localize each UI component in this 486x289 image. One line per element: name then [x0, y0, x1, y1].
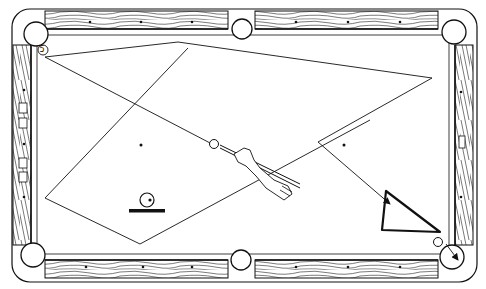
rail-left: [13, 45, 31, 245]
rail-latch-icon: [19, 172, 27, 182]
rail-latch-icon: [19, 118, 27, 128]
pocket-top-center: [232, 19, 252, 39]
rail-top-right: [255, 11, 438, 29]
pocket-top-right: [442, 20, 466, 44]
foot-spot: [343, 144, 346, 147]
table-frame: [12, 9, 477, 282]
pool-table-diagram: 5: [0, 0, 486, 289]
pocket-top-left: [24, 22, 48, 46]
object-ball: [434, 238, 443, 247]
rail-latch-icon: [19, 158, 27, 168]
ball-5-label: 5: [40, 46, 45, 54]
rail-latch-icon: [459, 136, 465, 148]
rail-bottom-right: [255, 260, 438, 278]
cue-ball: [210, 140, 219, 149]
pocket-bottom-right: [440, 245, 464, 269]
pocket-bottom-left: [21, 243, 45, 267]
head-spot: [140, 144, 143, 147]
rail-top-left: [45, 11, 228, 29]
pocket-bottom-center: [231, 250, 251, 270]
pool-table-svg: [0, 0, 486, 289]
rail-bottom-left: [45, 260, 228, 278]
rail-right: [455, 45, 473, 245]
rail-latch-icon: [19, 103, 27, 113]
